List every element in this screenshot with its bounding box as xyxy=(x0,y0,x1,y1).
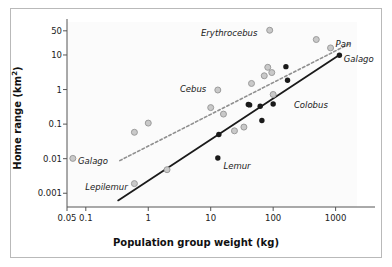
trend-line-black-trend xyxy=(118,55,339,201)
point-annotation: Cebus xyxy=(0,84,206,94)
x-tick-label: 1 xyxy=(146,213,151,223)
data-point-black-group xyxy=(215,155,220,160)
data-point-gray-group xyxy=(131,181,137,187)
data-point-black-group xyxy=(216,132,221,137)
y-tick-label: 10 xyxy=(22,50,62,60)
data-point-black-group xyxy=(247,102,252,107)
data-point-gray-group xyxy=(269,70,275,76)
data-point-gray-group xyxy=(131,129,137,135)
point-annotation: Lemur xyxy=(223,161,250,171)
y-axis-title-text: Home range (km2) xyxy=(12,66,23,169)
data-point-black-group xyxy=(270,101,275,106)
data-point-gray-group xyxy=(208,105,214,111)
y-tick-label: 0.01 xyxy=(22,154,62,164)
y-tick-label: 0.1 xyxy=(22,119,62,129)
point-annotation: Lepilemur xyxy=(0,182,128,192)
point-annotation: Erythrocebus xyxy=(0,28,257,38)
data-point-gray-group xyxy=(145,120,151,126)
y-axis-title: Home range (km2) xyxy=(11,66,23,169)
data-point-gray-group xyxy=(265,64,271,70)
data-point-gray-group xyxy=(231,128,237,134)
data-point-black-group xyxy=(257,103,262,108)
data-point-gray-group xyxy=(328,45,334,51)
data-point-black-group xyxy=(337,53,342,58)
data-point-gray-group xyxy=(241,124,247,130)
point-annotation: Galago xyxy=(78,156,108,166)
data-point-gray-group xyxy=(270,91,276,97)
data-point-gray-group xyxy=(267,27,273,33)
x-axis-title: Population group weight (kg) xyxy=(113,237,279,248)
data-point-gray-group xyxy=(70,155,76,161)
data-point-gray-group xyxy=(164,167,170,173)
x-tick-label: 1000 xyxy=(325,213,347,223)
x-tick-label: 100 xyxy=(265,213,281,223)
data-point-gray-group xyxy=(313,37,319,43)
point-annotation: Pan xyxy=(336,39,352,49)
x-tick-label: 0.1 xyxy=(79,213,93,223)
data-point-gray-group xyxy=(215,87,221,93)
data-point-black-group xyxy=(259,118,264,123)
data-point-gray-group xyxy=(261,73,267,79)
chart-canvas xyxy=(0,0,392,267)
trend-lines-group xyxy=(118,43,351,200)
x-tick-label: 10 xyxy=(205,213,216,223)
point-annotation: Colobus xyxy=(294,100,328,110)
data-point-black-group xyxy=(285,78,290,83)
figure-container: 0.0010.010.1110500.050.11101001000Erythr… xyxy=(0,0,392,267)
data-point-black-group xyxy=(283,64,288,69)
data-point-gray-group xyxy=(249,80,255,86)
point-annotation: Galago xyxy=(344,54,374,64)
data-point-gray-group xyxy=(220,111,226,117)
x-tick-label: 0.05 xyxy=(58,213,77,223)
